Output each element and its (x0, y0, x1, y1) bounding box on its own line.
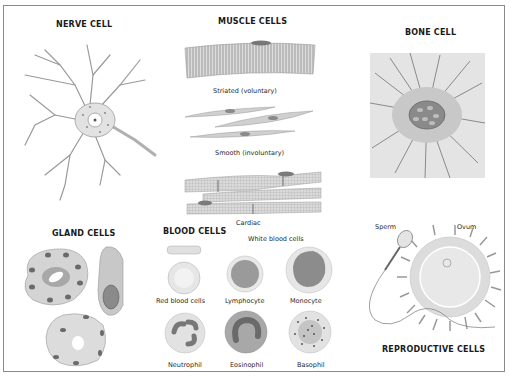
cardiac-label: Cardiac (236, 219, 261, 227)
muscle-cells-title: MUSCLE CELLS (218, 17, 287, 26)
eosinophil-label: Eosinophil (230, 361, 263, 369)
cardiac-muscle-illustration (183, 168, 323, 216)
lymphocyte-illustration (225, 254, 265, 294)
blood-cells-title: BLOOD CELLS (163, 227, 226, 236)
gland-cells-title: GLAND CELLS (52, 229, 115, 238)
eosinophil-illustration (224, 310, 268, 354)
basophil-label: Basophil (297, 361, 325, 369)
nerve-cell-title: NERVE CELL (56, 20, 112, 29)
gland-cells-illustration (18, 245, 138, 370)
monocyte-label: Monocyte (290, 297, 322, 305)
reproductive-cells-illustration (355, 225, 505, 340)
neutrophil-illustration (164, 312, 206, 354)
smooth-label: Smooth (involuntary) (215, 149, 284, 157)
smooth-muscle-illustration (185, 105, 320, 143)
bone-cell-illustration (370, 53, 485, 178)
reproductive-cells-title: REPRODUCTIVE CELLS (382, 345, 485, 354)
striated-label: Striated (voluntary) (213, 87, 277, 95)
nerve-cell-illustration (15, 35, 165, 200)
red-blood-cells-label: Red blood cells (156, 297, 205, 305)
basophil-illustration (288, 310, 332, 354)
monocyte-illustration (285, 245, 333, 295)
neutrophil-label: Neutrophil (168, 361, 202, 369)
striated-muscle-illustration (183, 40, 318, 82)
red-blood-cell-illustration (164, 246, 204, 296)
white-blood-cells-header: White blood cells (248, 235, 304, 243)
lymphocyte-label: Lymphocyte (225, 297, 264, 305)
bone-cell-title: BONE CELL (405, 28, 456, 37)
